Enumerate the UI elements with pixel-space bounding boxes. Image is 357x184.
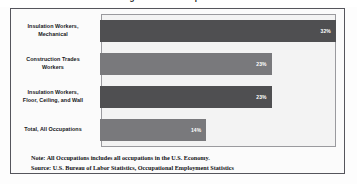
figure-outer-border: Insulation Workers, Mechanical 32% Const… <box>10 8 345 174</box>
category-label-line: Insulation Workers, <box>11 23 95 31</box>
bar-rows: Insulation Workers, Mechanical 32% Const… <box>11 14 346 147</box>
bar-track: 32% <box>99 14 346 47</box>
bar-track: 23% <box>99 47 346 80</box>
bar-row: Insulation Workers, Mechanical 32% <box>11 14 346 47</box>
bar-value-label: 23% <box>256 94 271 100</box>
category-label: Construction Trades Workers <box>11 56 99 72</box>
footer-notes: Note: All Occupations includes all occup… <box>31 153 331 173</box>
cropped-title-strip: Percentage of Workers Exposed to Hazards <box>0 0 357 7</box>
category-label: Insulation Workers, Floor, Ceiling, and … <box>11 89 99 105</box>
bar-row: Insulation Workers, Floor, Ceiling, and … <box>11 81 346 114</box>
bar-track: 23% <box>99 81 346 114</box>
bar-row: Construction Trades Workers 23% <box>11 47 346 80</box>
category-label-line: Total, All Occupations <box>11 126 95 134</box>
chart-figure: Percentage of Workers Exposed to Hazards… <box>0 0 357 184</box>
bar: 23% <box>100 86 272 108</box>
bar-row: Total, All Occupations 14% <box>11 114 346 147</box>
category-label: Insulation Workers, Mechanical <box>11 23 99 39</box>
bar-value-label: 14% <box>191 127 206 133</box>
category-label-line: Floor, Ceiling, and Wall <box>11 97 95 105</box>
note-text: Note: All Occupations includes all occup… <box>31 153 331 163</box>
category-label-line: Insulation Workers, <box>11 89 95 97</box>
category-label-line: Workers <box>11 64 95 72</box>
source-text: Source: U.S. Bureau of Labor Statistics,… <box>31 163 331 173</box>
category-label: Total, All Occupations <box>11 126 99 134</box>
bar: 23% <box>100 53 272 75</box>
category-label-line: Mechanical <box>11 31 95 39</box>
bar-track: 14% <box>99 114 346 147</box>
category-label-line: Construction Trades <box>11 56 95 64</box>
bar-value-label: 32% <box>321 28 336 34</box>
chart-title: Percentage of Workers Exposed to Hazards <box>0 0 357 2</box>
bar: 14% <box>100 119 206 141</box>
bar-value-label: 23% <box>256 61 271 67</box>
bar: 32% <box>100 20 336 42</box>
